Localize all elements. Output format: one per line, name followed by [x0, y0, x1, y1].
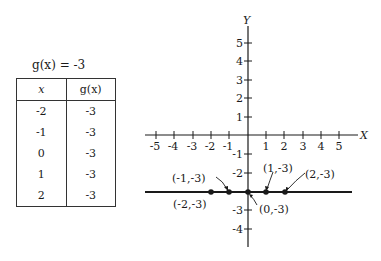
- coordinate-graph: X Y -5 -4 -3 -2 -1 1 2 3 4 5 5 4 3 2 1 -…: [0, 0, 381, 261]
- svg-text:4: 4: [236, 55, 243, 68]
- svg-text:-4: -4: [168, 140, 179, 153]
- svg-text:-2: -2: [232, 167, 243, 180]
- svg-text:2: 2: [281, 140, 288, 153]
- point-labels: (-1,-3) (-2,-3) (0,-3) (1,-3) (2,-3): [172, 162, 335, 216]
- point-2: [282, 189, 288, 195]
- point-0: [245, 189, 251, 195]
- label-0: (0,-3): [259, 203, 289, 216]
- svg-text:-4: -4: [232, 223, 243, 236]
- svg-text:3: 3: [236, 74, 243, 87]
- label-2: (2,-3): [305, 168, 335, 181]
- y-tick-labels: 5 4 3 2 1 -1 -2 -3 -4: [232, 37, 243, 236]
- svg-text:3: 3: [300, 140, 307, 153]
- x-tick-labels: -5 -4 -3 -2 -1 1 2 3 4 5: [150, 140, 343, 153]
- svg-text:5: 5: [236, 37, 243, 50]
- svg-text:5: 5: [336, 140, 343, 153]
- svg-text:1: 1: [263, 140, 270, 153]
- label-neg1: (-1,-3): [172, 172, 206, 185]
- x-axis-label: X: [359, 129, 369, 142]
- label-1: (1,-3): [263, 162, 293, 175]
- y-axis-label: Y: [243, 14, 252, 27]
- point-neg2: [208, 189, 214, 195]
- svg-text:-2: -2: [205, 140, 216, 153]
- svg-text:-5: -5: [150, 140, 161, 153]
- svg-text:-3: -3: [187, 140, 198, 153]
- svg-text:1: 1: [236, 111, 243, 124]
- label-neg2: (-2,-3): [173, 198, 207, 211]
- annotation-arrows: [216, 172, 305, 205]
- svg-text:2: 2: [236, 92, 243, 105]
- svg-text:4: 4: [318, 140, 325, 153]
- svg-text:-3: -3: [232, 204, 243, 217]
- svg-text:-1: -1: [232, 148, 243, 161]
